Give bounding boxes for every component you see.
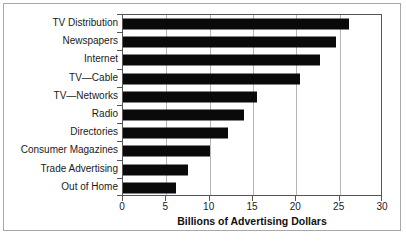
category-label: Newspapers [62, 32, 118, 50]
x-axis-tick-label: 30 [376, 201, 387, 212]
bar [123, 55, 320, 66]
bar [123, 110, 244, 121]
x-axis-tick-label: 5 [163, 201, 169, 212]
bar-row [123, 70, 381, 88]
category-label: Consumer Magazines [21, 141, 118, 159]
bar [123, 73, 300, 84]
x-axis-tick-label: 0 [119, 201, 125, 212]
bar [123, 182, 176, 193]
bar-row [123, 15, 381, 33]
category-axis-labels: TV DistributionNewspapersInternetTV—Cabl… [0, 14, 118, 196]
bar-row [123, 51, 381, 69]
category-label: Radio [92, 105, 118, 123]
category-label: TV Distribution [52, 14, 118, 32]
x-axis-tick-label: 25 [333, 201, 344, 212]
category-label: Trade Advertising [41, 160, 118, 178]
category-label: TV—Networks [54, 87, 118, 105]
plot-area [122, 14, 382, 196]
x-axis-tick-label: 10 [203, 201, 214, 212]
bar [123, 128, 228, 139]
x-axis-tick-label: 15 [246, 201, 257, 212]
bar [123, 164, 188, 175]
category-label: TV—Cable [69, 69, 118, 87]
bar [123, 146, 210, 157]
bar-series [123, 15, 381, 195]
bar-row [123, 179, 381, 197]
bar-row [123, 142, 381, 160]
x-axis-title: Billions of Advertising Dollars [122, 215, 382, 227]
bar-row [123, 88, 381, 106]
bar-row [123, 124, 381, 142]
category-label: Directories [70, 123, 118, 141]
bar-row [123, 33, 381, 51]
x-axis-tick-label: 20 [290, 201, 301, 212]
advertising-spend-bar-chart: TV DistributionNewspapersInternetTV—Cabl… [0, 0, 406, 246]
bar-row [123, 106, 381, 124]
category-label: Out of Home [61, 178, 118, 196]
x-axis-tick-labels: 051015202530 [122, 201, 382, 215]
bar [123, 19, 349, 30]
bar [123, 37, 336, 48]
category-label: Internet [84, 50, 118, 68]
bar-row [123, 161, 381, 179]
bar [123, 91, 257, 102]
